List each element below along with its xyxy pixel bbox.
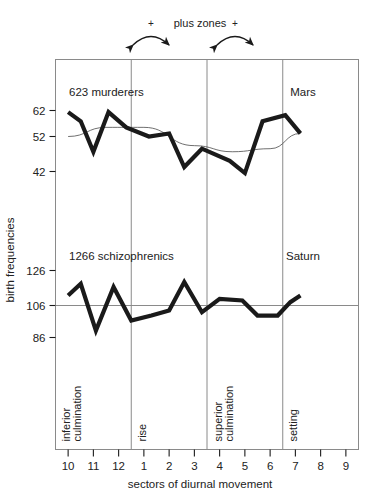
sector-marker-1-line-2: culmination: [71, 386, 83, 442]
upper-data-line-mars: [68, 112, 300, 173]
y-axis-title: birth frequencies: [4, 217, 16, 302]
figure-canvas: plus zones++ 625242623 murderersMars 126…: [0, 0, 379, 502]
upper-panel-title: 623 murderers: [69, 86, 144, 98]
lower-panel-series-label: Saturn: [286, 250, 320, 262]
lower-panel-title: 1266 schizophrenics: [69, 250, 174, 262]
sector-marker-label: rise: [136, 424, 148, 442]
lower-ytick-label-126: 126: [26, 265, 45, 277]
xtick-label-7: 7: [292, 460, 298, 472]
sector-marker-label: setting: [287, 409, 299, 441]
sector-marker-label: culmination: [71, 386, 83, 442]
upper-ytick-label-42: 42: [33, 166, 46, 178]
xtick-label-6: 6: [267, 460, 273, 472]
upper-ytick-label-62: 62: [33, 105, 46, 117]
xtick-label-11: 11: [87, 460, 99, 472]
xtick-label-5: 5: [242, 460, 248, 472]
upper-panel-mars: 625242623 murderersMars: [33, 86, 316, 178]
sector-marker-label: culmination: [223, 386, 235, 442]
plus-zones-label: plus zones: [174, 17, 227, 29]
x-axis-title: sectors of diurnal movement: [128, 478, 273, 490]
xtick-label-9: 9: [343, 460, 349, 472]
plus-zone-1: +: [133, 18, 169, 45]
xtick-label-1: 1: [141, 460, 147, 472]
xtick-label-4: 4: [216, 460, 223, 472]
double-arrow-arc-icon: [217, 37, 253, 46]
upper-panel-series-label: Mars: [290, 86, 316, 98]
plus-sign-1: +: [148, 18, 154, 29]
plus-zones-annotation: plus zones++: [133, 17, 253, 45]
plus-sign-2: +: [232, 18, 238, 29]
sector-marker-3-line-2: culmination: [223, 386, 235, 442]
sector-marker-2-line-1: rise: [136, 424, 148, 442]
xtick-label-8: 8: [317, 460, 323, 472]
lower-panel-saturn: 126106861266 schizophrenicsSaturn: [26, 250, 358, 344]
upper-ytick-label-52: 52: [33, 131, 46, 143]
xtick-label-3: 3: [191, 460, 197, 472]
xtick-label-2: 2: [166, 460, 172, 472]
lower-data-line-saturn: [68, 282, 300, 331]
lower-ytick-label-86: 86: [33, 332, 46, 344]
xtick-label-12: 12: [112, 460, 125, 472]
double-arrow-arc-icon: [133, 37, 169, 46]
sector-marker-4-line-1: setting: [287, 409, 299, 441]
xtick-label-10: 10: [62, 460, 75, 472]
chart-svg: plus zones++ 625242623 murderersMars 126…: [0, 0, 379, 502]
lower-ytick-label-106: 106: [26, 300, 45, 312]
